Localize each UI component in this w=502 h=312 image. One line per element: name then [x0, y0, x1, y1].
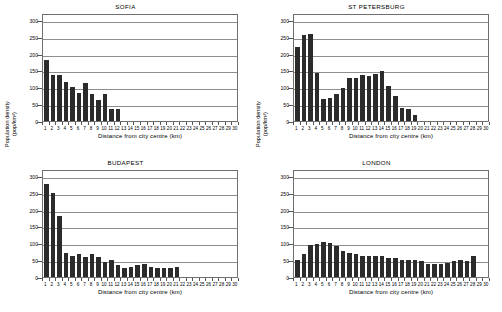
x-tick-mark [489, 278, 490, 281]
x-tick-labels: 1234567891011121314151617181920212223242… [42, 125, 238, 133]
x-tick-label: 19 [160, 125, 165, 132]
bar [64, 82, 69, 121]
bar [70, 256, 75, 277]
bar [360, 75, 365, 121]
x-tick-label: 14 [128, 125, 133, 132]
bar-series [43, 171, 237, 277]
bar-series [43, 15, 237, 121]
x-tick-label: 2 [51, 125, 54, 132]
x-tick-label: 4 [315, 125, 318, 132]
bar [471, 256, 476, 277]
x-tick-label: 12 [366, 125, 371, 132]
bar [168, 268, 173, 277]
x-tick-label: 11 [359, 125, 364, 132]
x-tick-label: 17 [147, 281, 152, 288]
x-tick-label: 6 [77, 125, 80, 132]
x-tick-label: 7 [83, 125, 86, 132]
x-tick-label: 10 [102, 281, 107, 288]
x-tick-label: 12 [115, 281, 120, 288]
x-tick-label: 11 [108, 281, 113, 288]
x-tick-label: 6 [328, 281, 331, 288]
x-tick-label: 19 [160, 281, 165, 288]
x-tick-mark [489, 122, 490, 125]
bar [452, 261, 457, 277]
x-tick-label: 19 [411, 281, 416, 288]
x-tick-label: 17 [398, 125, 403, 132]
x-tick-label: 25 [200, 125, 205, 132]
x-tick-label: 10 [353, 125, 358, 132]
x-tick-label: 8 [90, 125, 93, 132]
bar [373, 74, 378, 121]
x-tick-label: 9 [347, 281, 350, 288]
bar [90, 94, 95, 121]
x-tick-label: 26 [206, 125, 211, 132]
plot-area [293, 14, 489, 122]
plot-area [42, 170, 238, 278]
x-tick-label: 24 [444, 125, 449, 132]
x-tick-label: 1 [44, 281, 47, 288]
x-tick-label: 14 [379, 281, 384, 288]
x-tick-label: 22 [180, 281, 185, 288]
x-tick-label: 28 [470, 125, 475, 132]
x-tick-label: 3 [308, 281, 311, 288]
x-tick-label: 2 [302, 281, 305, 288]
x-tick-label: 23 [437, 281, 442, 288]
x-tick-label: 29 [477, 125, 482, 132]
x-tick-label: 30 [232, 281, 237, 288]
x-tick-mark [238, 278, 239, 281]
chart-panel-st-petersburg: Population density(pop/km²)0501001502002… [251, 0, 502, 156]
bar [57, 75, 62, 121]
bar [386, 258, 391, 277]
x-tick-label: 23 [437, 125, 442, 132]
x-tick-label: 23 [186, 281, 191, 288]
bar [116, 265, 121, 277]
x-tick-label: 16 [141, 281, 146, 288]
x-axis-title: Distance from city centre (km) [42, 289, 238, 295]
x-tick-label: 9 [347, 125, 350, 132]
x-tick-label: 14 [128, 281, 133, 288]
x-tick-label: 20 [167, 125, 172, 132]
bar [406, 260, 411, 277]
bar [142, 264, 147, 277]
bar [129, 267, 134, 277]
bar [135, 265, 140, 277]
x-tick-label: 13 [121, 281, 126, 288]
bar [334, 246, 339, 277]
bar [149, 267, 154, 277]
x-tick-label: 21 [173, 125, 178, 132]
x-tick-label: 26 [457, 281, 462, 288]
x-axis-title: Distance from city centre (km) [293, 133, 489, 139]
x-tick-label: 20 [418, 281, 423, 288]
bar [295, 47, 300, 121]
panel-title: BUDAPEST [0, 159, 251, 166]
bar [367, 76, 372, 121]
x-tick-label: 24 [193, 281, 198, 288]
bar [308, 245, 313, 277]
x-tick-label: 18 [405, 281, 410, 288]
bar [96, 100, 101, 121]
x-tick-label: 22 [431, 125, 436, 132]
x-tick-label: 29 [477, 281, 482, 288]
x-tick-label: 3 [308, 125, 311, 132]
x-tick-label: 5 [70, 281, 73, 288]
x-tick-label: 1 [295, 281, 298, 288]
x-tick-label: 29 [226, 125, 231, 132]
x-tick-label: 27 [213, 281, 218, 288]
x-axis-title: Distance from city centre (km) [42, 133, 238, 139]
bar [328, 243, 333, 277]
x-tick-label: 4 [64, 281, 67, 288]
x-axis-title: Distance from city centre (km) [293, 289, 489, 295]
x-tick-label: 7 [334, 281, 337, 288]
x-tick-label: 13 [121, 125, 126, 132]
bar [77, 254, 82, 277]
bar [109, 260, 114, 277]
x-tick-label: 10 [353, 281, 358, 288]
bar [328, 98, 333, 121]
bar [334, 94, 339, 121]
x-tick-label: 13 [372, 281, 377, 288]
bar [400, 108, 405, 121]
x-tick-label: 27 [464, 281, 469, 288]
bar [393, 258, 398, 277]
x-tick-label: 8 [341, 125, 344, 132]
bar [109, 109, 114, 121]
